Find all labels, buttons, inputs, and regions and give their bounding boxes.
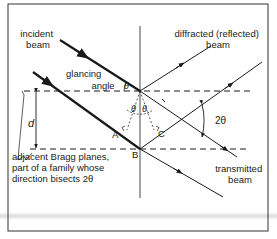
theta-left-label: θ <box>131 104 136 114</box>
transmitted-arrow-lower <box>174 169 180 173</box>
theta-right-label: θ <box>142 104 147 114</box>
bragg-diagram: incident beam diffracted (reflected) bea… <box>0 0 277 239</box>
theta-glancing-label: θ <box>124 81 129 91</box>
diffracted-arrow-upper <box>176 64 182 68</box>
diffracted-beam-upper <box>140 46 211 91</box>
point-c-label: C <box>158 128 165 139</box>
bragg-planes-note: adjacent Bragg planes, part of a family … <box>12 151 112 184</box>
diffracted-beam-label: diffracted (reflected) beam <box>175 28 262 50</box>
two-theta-label: 2θ <box>215 115 227 126</box>
small-tick <box>162 99 165 102</box>
diffracted-arrow-lower <box>225 84 231 88</box>
transmitted-beam-lower <box>140 149 223 197</box>
incident-beam-label: incident beam <box>20 28 55 50</box>
transmitted-beam-label: transmitted beam <box>215 163 265 185</box>
right-angle-mark-a <box>122 126 125 131</box>
point-a-label: A <box>112 129 119 140</box>
d-label: d <box>28 117 35 129</box>
point-b-label: B <box>132 149 138 160</box>
two-theta-arc <box>202 104 204 137</box>
